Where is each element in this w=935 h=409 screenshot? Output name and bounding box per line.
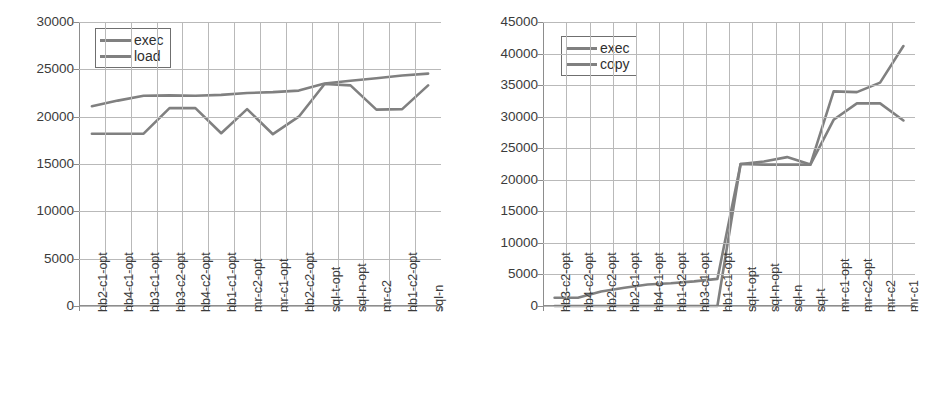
legend-swatch-icon [566,47,597,50]
y-tick-label: 40000 [500,47,538,61]
y-tick-mark [537,148,543,149]
y-tick-label: 20000 [500,173,538,187]
y-tick-label: 30000 [500,110,538,124]
x-tick-label: hb1-c2-opt [407,252,420,312]
gridline-vertical [799,22,800,306]
gridline-vertical [752,22,753,306]
x-tick-label: hb2-c2-opt [606,252,619,312]
x-tick-label: sql-n-opt [769,263,782,312]
x-tick-label: hb3-c1-opt [149,252,162,312]
y-tick-label: 45000 [500,15,538,29]
x-tick-label: sql-n [792,285,805,312]
y-tick-mark [537,22,543,23]
x-tick-label: sql-t-opt [746,267,759,312]
legend-label-exec: exec [134,33,164,47]
y-tick-label: 10000 [500,236,538,250]
legend-label-copy: copy [600,57,630,71]
y-tick-mark [537,85,543,86]
figure-pair: 050001000015000200002500030000 exec load… [0,0,935,409]
x-tick-label: hb4-c1-opt [653,252,666,312]
y-tick-label: 5000 [44,252,74,266]
x-tick-label: mr-c2 [381,280,394,312]
y-tick-mark [537,54,543,55]
y-tick-mark [537,211,543,212]
y-tick-mark [73,164,79,165]
y-tick-label: 15000 [500,205,538,219]
y-tick-mark [73,117,79,118]
y-tick-mark [537,180,543,181]
chart-left: 050001000015000200002500030000 exec load… [0,0,465,409]
y-tick-mark [537,274,543,275]
x-tick-label: hb4-c2-opt [583,252,596,312]
x-tick-label: hb1-c1-opt [722,252,735,312]
x-tick-label: sql-n [433,285,446,312]
gridline-vertical [822,22,823,306]
legend-right: exec copy [561,36,637,76]
y-tick-mark [537,117,543,118]
y-tick-mark [73,306,79,307]
x-tick-label: hb3-c1-opt [699,252,712,312]
y-tick-label: 30000 [36,15,74,29]
x-tick-label: sql-t [815,288,828,312]
x-tick-label: mr-c2-opt [252,259,265,312]
x-tick-label: hb2-c1-opt [97,252,110,312]
gridline-vertical [389,22,390,306]
x-tick-mark [79,306,80,311]
x-tick-label: hb3-c2-opt [175,252,188,312]
y-tick-label: 15000 [36,157,74,171]
y-tick-label: 10000 [36,205,74,219]
gridline-vertical [892,22,893,306]
y-tick-mark [73,259,79,260]
x-tick-label: hb2-c1-opt [629,252,642,312]
y-tick-mark [73,211,79,212]
y-tick-mark [537,306,543,307]
y-tick-label: 25000 [36,63,74,77]
x-tick-label: hb4-c1-opt [123,252,136,312]
legend-swatch-icon [566,63,597,66]
chart-right: 0500010000150002000025000300003500040000… [465,0,935,409]
x-tick-label: sql-t-opt [330,267,343,312]
x-tick-label: mr-c1-opt [278,259,291,312]
x-tick-label: hb4-c2-opt [200,252,213,312]
x-tick-label: sql-n-opt [356,263,369,312]
y-tick-mark [537,243,543,244]
x-tick-label: hb2-c2-opt [304,252,317,312]
x-tick-label: mr-c1-opt [839,259,852,312]
x-tick-label: mr-c1 [908,280,921,312]
x-tick-label: hb1-c2-opt [676,252,689,312]
x-tick-label: mr-c2 [885,280,898,312]
y-tick-mark [73,69,79,70]
y-tick-label: 35000 [500,78,538,92]
gridline-vertical [338,22,339,306]
legend-label-exec: exec [600,41,630,55]
y-tick-label: 25000 [500,141,538,155]
y-tick-label: 5000 [508,268,538,282]
x-tick-label: hb3-c2-opt [560,252,573,312]
legend-item-copy: copy [566,56,630,72]
legend-left: exec load [95,28,171,68]
y-tick-label: 20000 [36,110,74,124]
x-tick-label: hb1-c1-opt [226,252,239,312]
x-tick-mark [543,306,544,311]
y-tick-mark [73,22,79,23]
x-tick-label: mr-c2-opt [862,259,875,312]
